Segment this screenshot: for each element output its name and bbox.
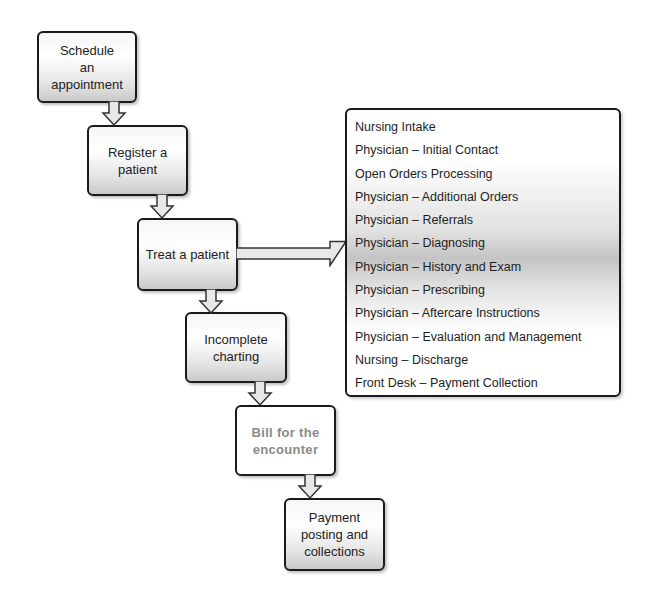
step-label-line: Treat a patient xyxy=(140,246,235,263)
down-arrow-icon xyxy=(149,194,175,220)
step-incomplete-charting: Incompletecharting xyxy=(185,312,287,383)
step-label-line: charting xyxy=(198,348,274,365)
step-label-line: collections xyxy=(295,543,374,560)
step-bill-encounter: Bill for theencounter xyxy=(235,405,336,476)
step-label-line: appointment xyxy=(45,76,129,93)
list-item: Physician – Diagnosing xyxy=(355,232,619,255)
list-item: Physician – Prescribing xyxy=(355,279,619,302)
list-item: Nursing Intake xyxy=(355,116,619,139)
step-register-patient: Register apatient xyxy=(87,125,188,196)
list-item: Physician – Evaluation and Management xyxy=(355,326,619,349)
list-item: Physician – Referrals xyxy=(355,209,619,232)
step-label-line: Bill for the xyxy=(246,424,326,441)
list-item: Nursing – Discharge xyxy=(355,349,619,372)
right-arrow-icon xyxy=(236,240,348,267)
list-item: Physician – Additional Orders xyxy=(355,186,619,209)
step-label-line: Register a xyxy=(102,144,173,161)
list-item: Open Orders Processing xyxy=(355,163,619,186)
treat-details-list: Nursing Intake Physician – Initial Conta… xyxy=(345,108,621,397)
list-item: Physician – Initial Contact xyxy=(355,139,619,162)
down-arrow-icon xyxy=(198,289,224,315)
step-label-line: Incomplete xyxy=(198,331,274,348)
list-item: Physician – History and Exam xyxy=(355,256,619,279)
down-arrow-icon xyxy=(297,474,323,500)
step-label-line: patient xyxy=(102,161,173,178)
step-label-line: posting and xyxy=(295,526,374,543)
step-treat-patient: Treat a patient xyxy=(137,218,238,291)
down-arrow-icon xyxy=(101,101,127,127)
step-label-line: encounter xyxy=(246,441,326,458)
step-payment-posting: Paymentposting andcollections xyxy=(284,498,385,571)
list-item: Physician – Aftercare Instructions xyxy=(355,302,619,325)
down-arrow-icon xyxy=(247,381,273,407)
step-label-line: Payment xyxy=(295,509,374,526)
step-schedule-appointment: Schedule anappointment xyxy=(37,31,137,103)
list-item: Front Desk – Payment Collection xyxy=(355,372,619,395)
step-label-line: Schedule an xyxy=(45,42,129,76)
